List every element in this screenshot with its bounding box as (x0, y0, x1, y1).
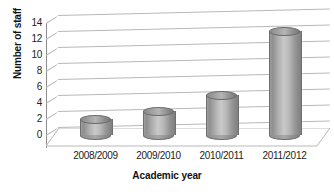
y-axis-tick-label: 8 (24, 66, 42, 76)
x-axis-tick-label: 2011/2012 (252, 150, 318, 161)
bar-top-ellipse (143, 107, 174, 116)
gridline-depth-edge (46, 16, 58, 24)
y-axis-title: Number of staff (12, 0, 23, 99)
gridline-depth-edge (46, 112, 58, 120)
bar-chart: Number of staff 02468101214 2008/2009200… (0, 0, 334, 192)
y-axis-tick-label: 0 (24, 130, 42, 140)
gridline-depth-edge (46, 64, 58, 72)
x-axis-title: Academic year (0, 170, 334, 181)
y-axis-tick-label: 2 (24, 114, 42, 124)
x-axis-tick-labels: 2008/20092009/20102010/20112011/2012 (0, 150, 334, 166)
x-axis-tick-label: 2009/2010 (126, 150, 192, 161)
bar (143, 107, 174, 140)
y-axis-tick-label: 10 (24, 50, 42, 60)
bar-top-ellipse (80, 115, 111, 124)
bar-top-ellipse (206, 91, 237, 100)
bar-body (269, 31, 302, 135)
x-axis-tick-label: 2008/2009 (63, 150, 129, 161)
gridline-depth-edge (46, 80, 58, 88)
bar (206, 91, 237, 140)
bar-body (206, 95, 239, 135)
bar (80, 115, 111, 140)
gridline-depth-edge (46, 48, 58, 56)
y-axis-tick-label: 12 (24, 34, 42, 44)
y-axis-tick-label: 4 (24, 98, 42, 108)
y-axis-tick-label: 6 (24, 82, 42, 92)
gridline (58, 9, 330, 16)
gridline-depth-edge (46, 96, 58, 104)
gridline-depth-edge (46, 32, 58, 40)
bar-top-ellipse (269, 27, 300, 36)
plot-area (46, 10, 330, 148)
y-axis-tick-label: 14 (24, 18, 42, 28)
bar (269, 27, 300, 140)
x-axis-tick-label: 2010/2011 (189, 150, 255, 161)
